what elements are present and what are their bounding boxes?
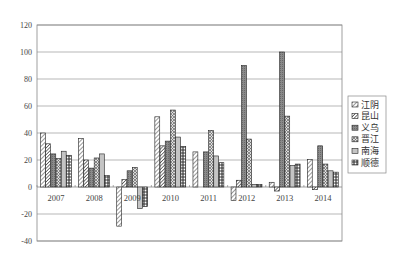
- y-tick-label: 80: [24, 75, 32, 84]
- legend: 江阴昆山义乌晋江南海顺德: [348, 96, 386, 173]
- legend-swatch-icon: [352, 160, 358, 165]
- x-category-label: 2012: [238, 193, 255, 203]
- legend-swatch-icon: [352, 137, 358, 142]
- bar-2011-2: [203, 152, 208, 187]
- x-category-label: 2014: [314, 193, 332, 203]
- y-tick-label: 20: [24, 156, 32, 165]
- x-category-label: 2013: [276, 193, 293, 203]
- bar-2012-5: [257, 184, 262, 187]
- y-axis-ticks: 120100806040200-20-40: [20, 21, 32, 246]
- bar-2009-3: [132, 167, 137, 187]
- bar-2010-0: [155, 117, 160, 187]
- bar-2014-0: [307, 159, 312, 187]
- x-category-label: 2009: [124, 193, 141, 203]
- y-tick-label: -20: [21, 210, 32, 219]
- bar-2008-0: [79, 138, 84, 187]
- bar-2014-2: [318, 146, 323, 187]
- bar-2012-4: [252, 184, 257, 187]
- x-category-label: 2011: [200, 193, 217, 203]
- x-category-label: 2007: [48, 193, 65, 203]
- legend-label: 晋江: [361, 134, 379, 144]
- bar-2014-3: [323, 164, 328, 187]
- x-category-label: 2008: [86, 193, 103, 203]
- bar-2007-5: [66, 155, 71, 187]
- bar-2014-1: [313, 187, 318, 190]
- y-tick-label: -40: [21, 237, 32, 246]
- bar-2013-3: [285, 116, 290, 187]
- bar-2007-3: [56, 159, 61, 187]
- bar-2013-0: [269, 182, 274, 187]
- bar-2012-1: [236, 180, 241, 187]
- legend-label: 义乌: [361, 122, 379, 133]
- bar-2009-2: [127, 171, 132, 187]
- bar-2010-4: [176, 137, 181, 187]
- legend-swatch-icon: [352, 148, 358, 153]
- bar-2011-5: [219, 163, 224, 187]
- bar-2011-0: [193, 152, 198, 187]
- bar-2009-5: [143, 187, 148, 207]
- y-tick-label: 60: [24, 102, 32, 111]
- bar-2008-2: [89, 168, 94, 187]
- y-tick-label: 40: [24, 129, 32, 138]
- legend-label: 顺德: [361, 157, 379, 168]
- legend-label: 昆山: [361, 111, 379, 121]
- bar-2010-1: [160, 146, 165, 187]
- bar-2013-2: [280, 52, 285, 187]
- bar-2012-3: [247, 139, 252, 187]
- bar-2011-3: [209, 130, 214, 187]
- legend-swatch-icon: [352, 125, 358, 130]
- bar-2007-0: [40, 133, 45, 187]
- bar-2008-3: [94, 158, 99, 187]
- bar-2013-5: [295, 164, 300, 187]
- legend-label: 南海: [361, 145, 379, 156]
- y-tick-label: 0: [28, 183, 32, 192]
- y-tick-label: 120: [20, 21, 32, 30]
- bar-2014-4: [328, 171, 333, 187]
- legend-swatch-icon: [352, 114, 358, 119]
- bar-2010-2: [165, 141, 170, 187]
- bar-2009-0: [117, 187, 122, 226]
- bar-2011-4: [214, 156, 219, 187]
- bar-chart: 120100806040200-20-40 200720082009201020…: [0, 0, 400, 258]
- bar-2007-1: [46, 144, 51, 187]
- grid-lines: [37, 25, 342, 241]
- x-axis-labels: 20072008200920102011201220132014: [48, 193, 333, 203]
- bar-2009-1: [122, 180, 127, 187]
- bar-2008-1: [84, 160, 89, 187]
- bar-2007-2: [51, 154, 56, 187]
- x-category-label: 2010: [162, 193, 179, 203]
- y-tick-label: 100: [20, 48, 32, 57]
- bar-2013-1: [274, 187, 279, 191]
- bar-2010-3: [170, 110, 175, 187]
- legend-swatch-icon: [352, 102, 358, 107]
- bar-2007-4: [61, 151, 66, 187]
- bar-2012-0: [231, 187, 236, 201]
- bar-2014-5: [333, 172, 338, 187]
- bar-2012-2: [241, 66, 246, 188]
- bar-2008-5: [105, 176, 110, 187]
- bar-2013-4: [290, 165, 295, 187]
- legend-label: 江阴: [361, 100, 379, 110]
- bar-2010-5: [181, 147, 186, 188]
- bar-2008-4: [99, 154, 104, 187]
